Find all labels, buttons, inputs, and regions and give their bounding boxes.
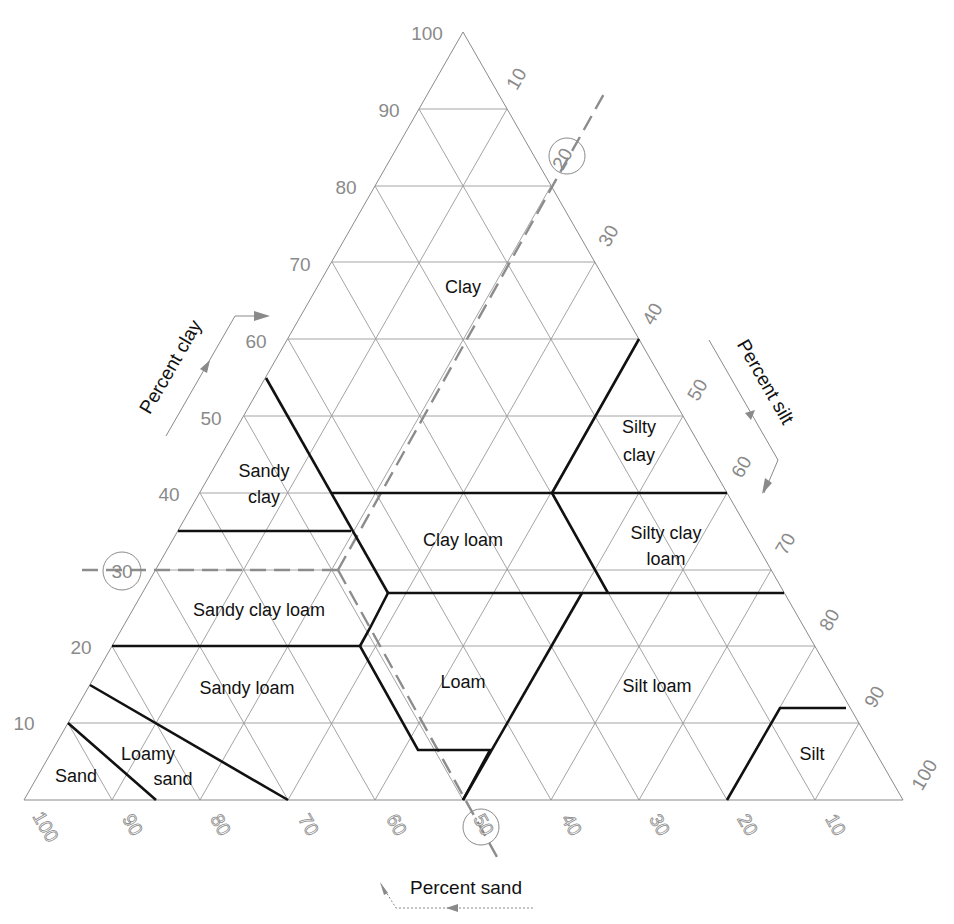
region-silt: Silt xyxy=(799,744,824,764)
region-loamy-sand-line1: Loamy xyxy=(121,744,175,764)
silt-arrowhead-icon xyxy=(762,478,772,494)
sand-tick-80: 80 xyxy=(206,810,235,839)
region-silty-clay-loam-line1: Silty clay xyxy=(630,523,701,543)
clay-tick-50: 50 xyxy=(200,408,221,429)
silt-tick-70: 70 xyxy=(771,529,800,558)
sand-tick-100: 100 xyxy=(29,808,63,846)
region-sandy-clay-line2: clay xyxy=(248,487,280,507)
clay-tick-20: 20 xyxy=(70,637,91,658)
region-sandy-clay-loam: Sandy clay loam xyxy=(193,600,325,620)
sand-axis-title-group: Percent sand xyxy=(380,877,533,912)
sand-arrowhead-icon xyxy=(380,882,388,895)
sand-arrowhead-icon xyxy=(446,904,458,912)
silt-axis-title: Percent silt xyxy=(733,336,799,429)
silt-tick-40: 40 xyxy=(638,299,667,328)
clay-tick-30: 30 xyxy=(111,561,132,582)
silt-tick-50: 50 xyxy=(683,375,712,404)
sand-tick-90: 90 xyxy=(118,810,147,839)
sand-axis-title: Percent sand xyxy=(410,877,522,898)
sand-tick-60: 60 xyxy=(382,810,411,839)
clay-arrowhead-icon xyxy=(200,360,210,373)
example-dashed-lines xyxy=(82,92,605,857)
soil-texture-triangle: 10 20 30 40 50 60 70 80 90 100 10 20 30 … xyxy=(0,0,954,924)
region-sandy-loam: Sandy loam xyxy=(199,678,294,698)
clay-tick-10: 10 xyxy=(13,713,34,734)
silt-tick-60: 60 xyxy=(727,452,756,481)
sand-tick-30: 30 xyxy=(645,810,674,839)
sand-tick-40: 40 xyxy=(557,810,586,839)
region-silt-loam: Silt loam xyxy=(622,676,691,696)
silt-tick-80: 80 xyxy=(815,605,844,634)
region-silty-clay-loam-line2: loam xyxy=(646,549,685,569)
region-clay-loam: Clay loam xyxy=(423,530,503,550)
sand-tick-10: 10 xyxy=(821,810,850,839)
clay-tick-70: 70 xyxy=(289,254,310,275)
silt-arrowhead-icon xyxy=(745,410,755,420)
clay-axis-title: Percent clay xyxy=(135,316,206,417)
silt-axis-ticks: 10 20 30 40 50 60 70 80 90 100 xyxy=(502,64,941,793)
region-clay: Clay xyxy=(445,277,481,297)
region-sand: Sand xyxy=(55,766,97,786)
clay-tick-60: 60 xyxy=(245,331,266,352)
clay-tick-80: 80 xyxy=(335,177,356,198)
clay-axis-ticks: 10 20 30 40 50 60 70 80 90 100 xyxy=(13,23,442,734)
silt-tick-90: 90 xyxy=(860,682,889,711)
silt-tick-100: 100 xyxy=(907,756,941,794)
silt-axis-title-group: Percent silt xyxy=(709,336,799,494)
region-loam: Loam xyxy=(440,672,485,692)
clay-arrowhead-icon xyxy=(254,311,270,321)
region-loamy-sand-line2: sand xyxy=(153,769,192,789)
sand-tick-20: 20 xyxy=(733,810,762,839)
region-sandy-clay-line1: Sandy xyxy=(238,461,289,481)
region-silty-clay-line2: clay xyxy=(623,445,655,465)
region-silty-clay-line1: Silty xyxy=(622,417,656,437)
clay-tick-40: 40 xyxy=(158,484,179,505)
clay-tick-90: 90 xyxy=(378,100,399,121)
clay-tick-100: 100 xyxy=(411,23,443,44)
sand-axis-ticks: 100 90 80 70 60 50 40 30 20 10 xyxy=(29,808,850,846)
silt-tick-10: 10 xyxy=(502,64,531,93)
silt-tick-30: 30 xyxy=(594,221,623,250)
sand-tick-70: 70 xyxy=(294,810,323,839)
